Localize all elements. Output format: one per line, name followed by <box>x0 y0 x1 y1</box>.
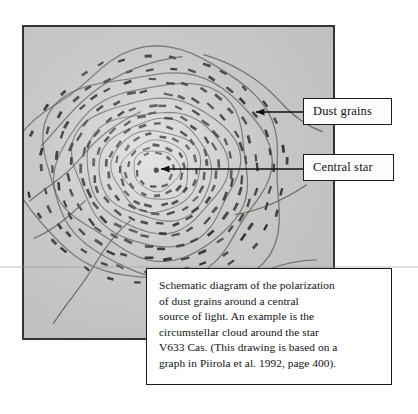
dust-grain-dash <box>137 116 145 117</box>
dust-grain-dash <box>144 205 152 207</box>
dust-grain-dash <box>87 141 90 148</box>
dust-grain-dash <box>248 135 250 143</box>
dust-grain-dash <box>141 222 148 224</box>
dust-grain-dash <box>69 143 72 151</box>
dust-grain-dash <box>107 251 115 255</box>
dust-grain-dash <box>30 131 33 137</box>
dust-grain-dash <box>127 92 136 93</box>
dust-grain-dash <box>269 186 272 194</box>
callout-central-star-label: Central star <box>313 160 373 175</box>
dust-grain-dash <box>172 138 178 141</box>
dust-grain-dash <box>169 174 172 180</box>
dust-grain-dash <box>38 213 41 218</box>
dust-grain-dash <box>220 114 225 120</box>
dust-grain-dash <box>192 207 199 212</box>
dust-grain-dash <box>208 230 214 235</box>
dust-grain-dash <box>114 101 120 105</box>
dust-grain-dash <box>181 172 183 179</box>
dust-grain-dash <box>84 267 89 271</box>
dust-grain-dash <box>164 118 172 119</box>
dust-grain-dash <box>120 254 127 256</box>
dust-grain-dash <box>156 223 163 224</box>
dust-grain-dash <box>153 145 160 146</box>
dust-grain-dash <box>183 163 185 168</box>
dust-grain-dash <box>61 131 63 138</box>
dust-grain-dash <box>133 137 139 141</box>
figure-scene: Dust grains Central star Schematic diagr… <box>0 0 418 414</box>
callout-dust-grains[interactable]: Dust grains <box>303 98 392 125</box>
dust-grain-dash <box>160 137 167 138</box>
dust-grain-dash <box>97 106 103 111</box>
callout-central-star[interactable]: Central star <box>303 154 394 181</box>
dust-grain-dash <box>234 203 238 211</box>
dust-grain-dash <box>125 145 129 151</box>
dust-grain-dash <box>130 183 134 188</box>
dust-grain-dash <box>114 224 121 227</box>
dust-grain-dash <box>175 106 182 109</box>
dust-grain-dash <box>129 108 136 111</box>
dust-grain-dash <box>173 164 174 170</box>
dust-grain-dash <box>96 186 98 193</box>
dust-grain-dash <box>61 91 66 95</box>
dust-grain-dash <box>176 245 184 246</box>
dust-grain-dash <box>134 201 140 204</box>
dust-grain-dash <box>140 91 147 93</box>
dust-grain-dash <box>166 83 175 84</box>
dust-grain-dash <box>171 234 179 236</box>
dust-grain-dash <box>51 239 56 244</box>
dust-grain-dash <box>162 184 168 186</box>
dust-grain-dash <box>247 199 249 207</box>
dust-grain-dash <box>101 263 108 265</box>
dust-grain-dash <box>145 133 151 135</box>
dust-grain-dash <box>224 138 227 145</box>
dust-grain-dash <box>91 95 98 100</box>
figure-caption-text: Schematic diagram of the polarization of… <box>159 278 381 372</box>
dust-grain-dash <box>202 120 209 125</box>
dust-grain-dash <box>140 210 147 212</box>
dust-grain-dash <box>116 156 117 163</box>
dust-grain-dash <box>151 214 159 215</box>
dust-grain-dash <box>128 161 129 167</box>
dust-grain-dash <box>283 145 284 153</box>
dust-grain-dash <box>83 120 88 126</box>
callout-dust-grains-label: Dust grains <box>313 104 372 119</box>
dust-grain-dash <box>179 153 182 158</box>
dust-grain-dash <box>144 153 149 155</box>
dust-grain-dash <box>82 178 84 186</box>
dust-grain-dash <box>180 131 187 136</box>
dust-grain-dash <box>270 148 271 155</box>
dust-grain-dash <box>212 207 217 213</box>
dust-grain-dash <box>58 182 59 190</box>
dust-grain-dash <box>172 201 178 204</box>
dust-grain-dash <box>257 163 258 172</box>
dust-grain-dash <box>183 187 187 192</box>
dust-grain-dash <box>64 121 68 128</box>
dust-grain-dash <box>241 234 246 241</box>
dust-grain-dash <box>239 187 242 195</box>
dust-grain-dash <box>245 156 246 165</box>
dust-grain-dash <box>140 235 148 237</box>
dust-grain-dash <box>253 243 258 248</box>
dust-grain-dash <box>274 118 277 124</box>
dust-grain-dash <box>146 69 154 70</box>
dust-grain-dash <box>95 240 103 245</box>
dust-grain-dash <box>170 69 177 70</box>
dust-grain-dash <box>143 148 150 150</box>
dust-grain-dash <box>203 64 210 66</box>
dust-grain-dash <box>216 170 217 178</box>
dust-grain-dash <box>204 172 205 180</box>
dust-grain-dash <box>264 224 267 230</box>
dust-grain-dash <box>204 217 210 224</box>
dust-grain-dash <box>192 110 199 115</box>
dust-grain-dash <box>141 193 146 196</box>
dust-grain-dash <box>141 181 144 185</box>
dust-grain-dash <box>199 186 203 193</box>
dust-grain-dash <box>192 98 200 103</box>
dust-grain-dash <box>206 159 207 165</box>
dust-grain-dash <box>73 97 79 102</box>
dust-grain-dash <box>199 262 206 265</box>
dust-grain-dash <box>178 96 185 99</box>
dust-grain-dash <box>89 218 94 225</box>
figure-caption-box: Schematic diagram of the polarization of… <box>146 268 392 385</box>
dust-grain-dash <box>81 249 87 253</box>
